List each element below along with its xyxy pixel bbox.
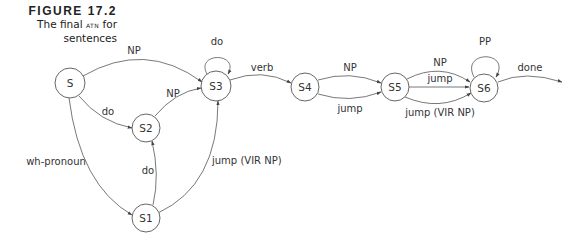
edge-s1-s3-jump-vir-np (158, 101, 218, 213)
edge-s5-s6-jump-vir-np (405, 93, 471, 104)
edge-label: jump (336, 103, 362, 114)
node-s2: S2 (132, 114, 160, 142)
edge-label: NP (166, 88, 180, 99)
edge-label: verb (251, 62, 274, 73)
edge-label: done (518, 62, 543, 73)
edge-label: PP (479, 36, 491, 47)
edge-s4-s5-jump (318, 92, 381, 99)
edge-label: do (102, 106, 114, 117)
edge-label: jump (VIR NP) (211, 155, 282, 166)
atn-diagram: NP do wh-pronoun NP do jump (VIR NP) do … (0, 0, 573, 236)
node-label: S6 (477, 82, 491, 94)
node-label: S3 (209, 80, 222, 92)
edge-label: NP (343, 62, 357, 73)
node-label: S5 (388, 81, 401, 93)
node-s3: S3 (201, 71, 231, 101)
node-label: S2 (139, 122, 152, 134)
node-s: S (55, 68, 85, 98)
edge-s6-done (498, 76, 562, 82)
edge-s-s3-np (83, 59, 202, 82)
node-s6: S6 (470, 74, 498, 102)
node-label: S4 (298, 81, 312, 93)
edge-s3-s4-verb (230, 75, 291, 83)
edge-label: do (211, 36, 223, 47)
edge-label: NP (127, 45, 141, 56)
edge-label: jump (VIR NP) (404, 107, 475, 118)
edge-label: wh-pronoun (26, 156, 86, 167)
edge-s4-s5-np (318, 76, 381, 83)
node-label: S (67, 77, 74, 89)
edge-label: do (142, 165, 154, 176)
edge-label: NP (433, 57, 447, 68)
edge-label: jump (426, 73, 452, 84)
node-s4: S4 (291, 73, 319, 101)
node-label: S1 (139, 212, 152, 224)
node-s5: S5 (381, 73, 409, 101)
node-s1: S1 (132, 204, 160, 232)
